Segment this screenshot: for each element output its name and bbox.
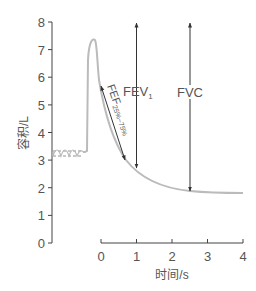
- x-axis-label: 时间/s: [155, 268, 188, 282]
- tidal-breathing: [53, 150, 83, 156]
- fev1-label: FEV1: [123, 84, 153, 101]
- y-tick-label: 1: [38, 208, 45, 223]
- x-tick-label: 1: [133, 249, 140, 264]
- y-axis: 8 7 6 5 4 3 2 1 0 容积/L: [16, 15, 52, 251]
- spirogram-curve: [83, 39, 243, 193]
- y-tick-label: 6: [38, 70, 45, 85]
- y-tick-label: 7: [38, 43, 45, 58]
- y-tick-label: 4: [38, 126, 45, 141]
- fvc-annotation: FVC: [176, 23, 204, 191]
- y-tick-label: 0: [38, 236, 45, 251]
- y-tick-label: 5: [38, 98, 45, 113]
- y-tick-label: 2: [38, 181, 45, 196]
- x-tick-label: 2: [168, 249, 175, 264]
- x-axis: 0 1 2 3 4 时间/s: [97, 239, 246, 282]
- y-tick-label: 8: [38, 15, 45, 30]
- y-tick-label: 3: [38, 153, 45, 168]
- fvc-label: FVC: [177, 85, 203, 100]
- y-axis-label: 容积/L: [16, 116, 31, 150]
- x-tick-label: 4: [239, 249, 246, 264]
- x-tick-label: 0: [97, 249, 104, 264]
- x-tick-label: 3: [204, 249, 211, 264]
- spirometry-chart: 8 7 6 5 4 3 2 1 0 容积/L 0 1 2 3 4 时间/s: [0, 0, 256, 291]
- fev1-annotation: FEV1: [123, 23, 153, 168]
